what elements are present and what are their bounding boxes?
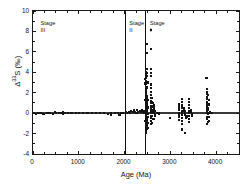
annotation-stage-number: III — [40, 27, 55, 34]
y-axis-tick — [237, 21, 239, 22]
y-axis-tick — [33, 133, 36, 134]
x-axis-tick-label: 3000 — [149, 158, 189, 165]
y-axis-title: Δ33S (‰) — [11, 0, 22, 144]
x-axis-tick — [90, 152, 91, 154]
x-axis-tick — [227, 152, 228, 154]
data-point — [145, 91, 147, 93]
data-point — [153, 118, 155, 120]
x-axis-tick — [33, 151, 34, 154]
data-point — [150, 75, 152, 77]
annotation-stage-number: II — [129, 27, 144, 34]
data-point — [178, 103, 180, 105]
x-axis-tick — [181, 152, 182, 154]
data-point — [48, 112, 50, 114]
data-point — [129, 112, 131, 114]
data-point — [153, 104, 155, 106]
x-axis-tick — [101, 11, 102, 13]
data-point — [181, 123, 183, 125]
data-point — [147, 116, 149, 118]
x-axis-tick-label: 4000 — [195, 158, 235, 165]
y-axis-tick — [33, 82, 35, 83]
data-point — [95, 112, 97, 114]
data-point — [154, 114, 156, 116]
x-axis-tick — [55, 152, 56, 154]
x-axis-tick — [204, 11, 205, 13]
data-point — [181, 120, 183, 122]
x-axis-tick — [136, 152, 137, 154]
y-axis-tick — [33, 92, 36, 93]
data-point — [188, 115, 190, 117]
x-axis-tick — [216, 11, 217, 14]
stage-divider-line-1 — [125, 11, 126, 154]
x-axis-tick — [216, 151, 217, 154]
x-axis-tick — [158, 152, 159, 154]
data-point — [146, 43, 148, 45]
annotation-stage-number: I — [150, 27, 165, 34]
data-point — [86, 112, 88, 114]
x-axis-tick — [193, 152, 194, 154]
data-point — [178, 119, 180, 121]
data-point — [169, 117, 171, 119]
x-axis-tick — [204, 152, 205, 154]
data-point — [146, 72, 148, 74]
y-axis-title-delta: Δ — [13, 82, 22, 87]
y-axis-tick — [236, 92, 239, 93]
x-axis-tick — [124, 151, 125, 154]
y-axis-tick — [237, 123, 239, 124]
data-point — [70, 112, 72, 114]
annotation-stage-i: StageI — [150, 20, 165, 33]
data-point — [184, 132, 186, 134]
y-axis-title-suffix: S (‰) — [13, 56, 22, 76]
data-point — [146, 52, 148, 54]
data-point — [188, 118, 190, 120]
annotation-stage-ii: StageII — [129, 20, 144, 33]
x-axis-tick — [124, 11, 125, 14]
data-point — [99, 112, 101, 114]
x-axis-tick — [239, 11, 240, 13]
y-axis-tick — [33, 102, 35, 103]
x-axis-tick — [78, 151, 79, 154]
data-point — [75, 112, 77, 114]
data-point — [181, 98, 183, 100]
data-point — [145, 77, 147, 79]
x-axis-tick-label: 1000 — [58, 158, 98, 165]
data-point — [147, 99, 149, 101]
x-axis-tick — [170, 11, 171, 14]
data-point — [42, 113, 44, 115]
y-axis-tick — [33, 51, 36, 52]
y-axis-tick — [33, 62, 35, 63]
data-point — [103, 112, 105, 114]
data-point — [78, 112, 80, 114]
x-axis-tick — [239, 152, 240, 154]
data-point — [145, 132, 147, 134]
data-point — [207, 94, 209, 96]
y-axis-tick — [33, 72, 36, 73]
data-point — [150, 91, 152, 93]
y-axis-tick — [236, 72, 239, 73]
data-point — [146, 122, 148, 124]
x-axis-tick-labels: 01000200030004000 — [32, 158, 240, 168]
x-axis-tick — [101, 152, 102, 154]
data-point — [114, 112, 116, 114]
data-point — [188, 121, 190, 123]
data-point — [146, 81, 148, 83]
x-axis-tick — [181, 11, 182, 13]
data-point — [150, 87, 152, 89]
data-point — [150, 68, 152, 70]
data-point — [150, 83, 152, 85]
data-point — [208, 99, 210, 101]
x-axis-tick — [78, 11, 79, 14]
y-axis-tick — [33, 31, 36, 32]
x-axis-tick — [147, 11, 148, 13]
figure-scatter-plot: -4-20246810 Δ33S (‰) StageIIIStageIIStag… — [0, 0, 252, 192]
y-axis-tick — [236, 31, 239, 32]
x-axis-tick — [113, 152, 114, 154]
x-axis-tick-label: 0 — [12, 158, 52, 165]
data-point — [146, 119, 148, 121]
y-axis-tick — [237, 102, 239, 103]
data-point — [147, 106, 149, 108]
data-point — [147, 127, 149, 129]
annotation-stage-word: Stage — [150, 20, 165, 26]
data-point — [150, 48, 152, 50]
data-point — [146, 75, 148, 77]
